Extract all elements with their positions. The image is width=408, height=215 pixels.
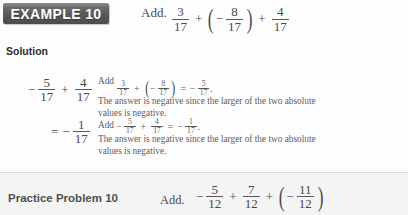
practice-problem-prompt: Add. — [160, 193, 185, 208]
solution-heading: Solution — [6, 45, 48, 57]
example-operator-2: + — [258, 11, 265, 27]
practice-fraction-3: 11 12 — [297, 183, 314, 211]
step2-note-frac-b: 4 17 — [151, 118, 163, 134]
step1-operator: + — [61, 82, 68, 98]
step1-note-period: . — [210, 83, 213, 94]
step2-note-op: + — [141, 121, 147, 132]
step2-note-result-frac: 1 17 — [185, 118, 197, 134]
step2-equals: = — [51, 124, 58, 140]
practice-fraction-1: 5 12 — [206, 183, 223, 211]
paren-close-icon: ) — [317, 191, 323, 203]
example-fraction-3: 4 17 — [272, 5, 289, 33]
example-fraction-1: 3 17 — [172, 5, 189, 33]
practice-problem-label: Practice Problem 10 — [8, 192, 118, 204]
step1-note-frac-b: 8 17 — [158, 80, 170, 96]
step1-note-text-line1: The answer is negative since the larger … — [98, 96, 404, 107]
solution-step-1-note: Add 3 17 + ( − 8 17 ) = − 5 17 — [98, 76, 404, 119]
step1-note-prefix: Add — [98, 76, 114, 86]
section-divider — [0, 172, 408, 173]
example-expression: 3 17 + ( − 8 17 ) + 4 17 — [170, 0, 291, 38]
step2-note-period: . — [198, 121, 201, 132]
step1-note-frac-a: 3 17 — [117, 80, 129, 96]
step2-note-result-sign: − — [177, 121, 183, 132]
solution-step-2-note: Add − 5 17 + 4 17 = − 1 17 . — [98, 118, 404, 157]
step2-sign: − — [62, 124, 69, 140]
practice-problem-expression: − 5 12 + 7 12 + ( − 11 12 ) — [196, 183, 325, 211]
step2-note-sign-a: − — [116, 121, 122, 132]
example-fraction-2: 8 17 — [226, 5, 243, 33]
example-badge-label: EXAMPLE 10 — [10, 7, 101, 21]
solution-step-1-math: − 5 17 + 4 17 — [28, 76, 94, 104]
step2-note-frac-a: 5 17 — [124, 118, 136, 134]
step1-sign: − — [28, 82, 35, 98]
step1-fraction-1: 5 17 — [38, 76, 55, 104]
textbook-example-page: EXAMPLE 10 Add. 3 17 + ( − 8 17 ) + 4 17… — [0, 0, 408, 215]
step1-note-result-frac: 5 17 — [198, 80, 210, 96]
practice-fraction-2: 7 12 — [243, 183, 260, 211]
example-prompt: Add. — [141, 5, 167, 21]
solution-step-2-math: = − 1 17 — [47, 118, 92, 146]
step1-note-math-line: Add 3 17 + ( − 8 17 ) = − 5 17 — [98, 76, 404, 96]
step1-note-sign-b: − — [150, 83, 156, 94]
step2-fraction: 1 17 — [73, 118, 90, 146]
step1-note-math: 3 17 + ( − 8 17 ) = − 5 17 . — [116, 80, 213, 96]
practice-operator-2: + — [266, 189, 273, 205]
step1-note-result-sign: − — [190, 83, 196, 94]
example-operator-1: + — [195, 11, 202, 27]
paren-open-icon: ( — [208, 13, 214, 25]
paren-open-icon: ( — [145, 84, 149, 92]
practice-operator-1: + — [229, 189, 236, 205]
example-sign-2: − — [216, 11, 223, 27]
step2-note-text-line2: values is negative. — [98, 146, 404, 157]
step1-note-equals: = — [180, 83, 186, 94]
step1-fraction-2: 4 17 — [75, 76, 92, 104]
paren-open-icon: ( — [279, 191, 285, 203]
paren-close-icon: ) — [247, 13, 253, 25]
step2-note-text-line1: The answer is negative since the larger … — [98, 134, 404, 145]
practice-sign-1: − — [196, 189, 203, 205]
step2-note-math-line: Add − 5 17 + 4 17 = − 1 17 . — [98, 118, 404, 134]
step1-note-op: + — [134, 83, 140, 94]
step2-note-math: − 5 17 + 4 17 = − 1 17 . — [116, 118, 200, 134]
paren-close-icon: ) — [171, 84, 175, 92]
practice-sign-3: − — [286, 189, 293, 205]
step2-note-prefix: Add — [98, 120, 114, 130]
example-badge: EXAMPLE 10 — [3, 3, 109, 24]
step2-note-equals: = — [168, 121, 174, 132]
